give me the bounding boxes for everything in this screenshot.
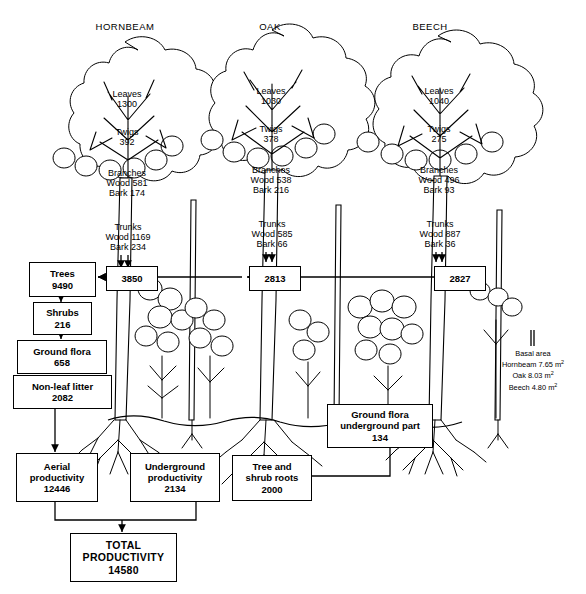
basal-area-row-hornbeam: Hornbeam 7.65 m2 — [482, 359, 584, 370]
box-tree-and-shrub-roots: Tree and shrub roots 2000 — [232, 455, 312, 501]
column-header-beech: BEECH — [398, 22, 462, 33]
basal-area-row-oak: Oak 8.03 m2 — [482, 370, 584, 381]
part-label-beech-trunks: Trunks Wood 887 Bark 36 — [396, 219, 484, 249]
basal-area-title: Basal area — [482, 349, 584, 359]
part-label-beech-branches: Branches Wood 496 Bark 93 — [396, 165, 482, 195]
basal-area-row-beech: Beech 4.80 m2 — [482, 382, 584, 393]
part-label-hornbeam-twigs: Twigs 392 — [94, 127, 160, 147]
part-label-hornbeam-leaves: Leaves 1300 — [94, 89, 160, 109]
subtotal-box-hornbeam: 3850 — [106, 266, 158, 291]
column-header-oak: OAK — [238, 22, 302, 33]
part-label-hornbeam-branches: Branches Wood 581 Bark 174 — [84, 168, 170, 198]
subtotal-box-oak: 2813 — [249, 266, 301, 291]
part-label-beech-twigs: Twigs 275 — [406, 124, 472, 144]
box-shrubs: Shrubs 216 — [33, 302, 92, 335]
diagram-canvas: HORNBEAM OAK BEECH Leaves 1300 Twigs 392… — [0, 0, 586, 594]
box-aerial-productivity: Aerial productivity 12446 — [16, 453, 98, 502]
subtotal-box-beech: 2827 — [434, 266, 486, 291]
box-underground-productivity: Underground productivity 2134 — [130, 453, 220, 502]
part-label-oak-twigs: Twigs 378 — [238, 124, 304, 144]
part-label-beech-leaves: Leaves 1040 — [406, 86, 472, 106]
box-non-leaf-litter: Non-leaf litter 2082 — [13, 375, 112, 409]
box-trees: Trees 9490 — [29, 262, 96, 297]
box-ground-flora: Ground flora 658 — [17, 340, 107, 374]
box-total-productivity: TOTAL PRODUCTIVITY 14580 — [70, 533, 177, 582]
column-header-hornbeam: HORNBEAM — [83, 22, 167, 33]
basal-area-note: Basal area Hornbeam 7.65 m2 Oak 8.03 m2 … — [482, 349, 584, 393]
part-label-oak-trunks: Trunks Wood 585 Bark 66 — [228, 219, 316, 249]
part-label-hornbeam-trunks: Trunks Wood 1169 Bark 234 — [82, 222, 174, 252]
box-ground-flora-underground-part: Ground flora underground part 134 — [327, 404, 433, 448]
part-label-oak-branches: Branches Wood 538 Bark 216 — [228, 165, 314, 195]
part-label-oak-leaves: Leaves 1030 — [238, 86, 304, 106]
